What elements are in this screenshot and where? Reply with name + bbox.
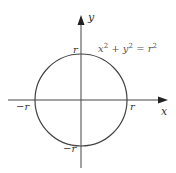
circle-diagram: y x r r −r −r x2 + y2 = r2 xyxy=(0,0,176,173)
intercept-left-label: −r xyxy=(16,101,30,112)
x-axis-label: x xyxy=(161,105,168,118)
y-axis-label: y xyxy=(87,11,95,24)
intercept-top-label: r xyxy=(73,44,79,55)
intercept-bottom-label: −r xyxy=(63,143,77,154)
y-axis-arrow-icon xyxy=(78,15,85,25)
x-axis-arrow-icon xyxy=(158,97,168,104)
intercept-right-label: r xyxy=(130,101,136,112)
circle-equation: x2 + y2 = r2 xyxy=(98,42,157,54)
